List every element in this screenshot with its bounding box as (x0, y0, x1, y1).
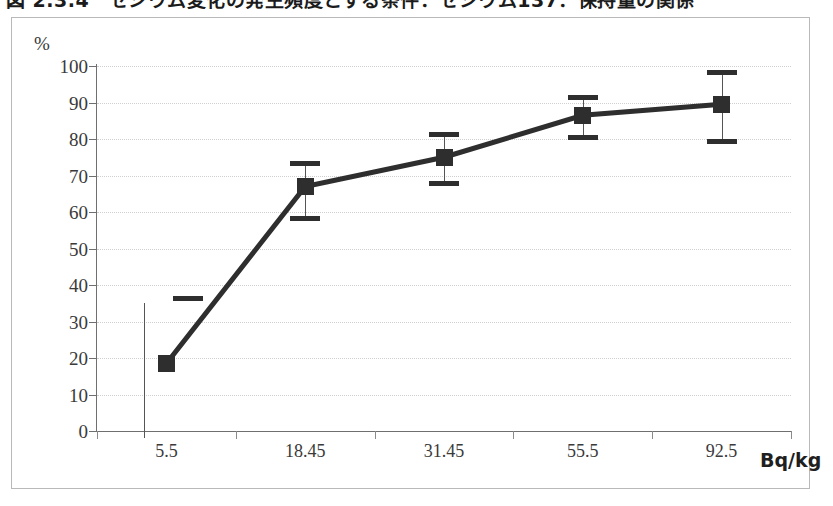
y-axis-tick-label: 10 (42, 386, 88, 405)
error-bar-cap (173, 296, 203, 301)
data-point-marker (297, 178, 314, 195)
data-point-marker (436, 149, 453, 166)
gridline (97, 322, 791, 323)
gridline (97, 212, 791, 213)
y-axis-tick-label: 40 (42, 276, 88, 295)
error-bar-cap (290, 161, 320, 166)
gridline (97, 285, 791, 286)
x-axis-tick (97, 431, 98, 439)
error-bar-cap (429, 132, 459, 137)
x-axis-tick (236, 431, 237, 439)
y-axis-tick-label: 0 (42, 422, 88, 441)
error-bar-cap (707, 70, 737, 75)
x-axis-tick-label: 31.45 (375, 441, 514, 462)
error-bar-cap (429, 181, 459, 186)
error-bar-whisker (144, 303, 145, 438)
x-axis-tick-label: 55.5 (513, 441, 652, 462)
x-axis-line (96, 431, 792, 432)
figure-caption: 図 2.3.4 セシウム変化の発生頻度とする条件：セシウム137：保持量の関係 (6, 0, 695, 12)
error-bar-cap (568, 135, 598, 140)
gridline (97, 249, 791, 250)
gridline (97, 66, 791, 67)
x-axis-tick (513, 431, 514, 439)
figure-caption-strip: 図 2.3.4 セシウム変化の発生頻度とする条件：セシウム137：保持量の関係 (0, 0, 833, 13)
gridline (97, 395, 791, 396)
x-axis-tick (652, 431, 653, 439)
gridline (97, 358, 791, 359)
y-axis-line (96, 64, 97, 432)
y-axis-tick-label: 70 (42, 167, 88, 186)
x-axis-tick-label: 18.45 (236, 441, 375, 462)
y-axis-tick-label: 60 (42, 203, 88, 222)
x-axis-tick (791, 431, 792, 439)
y-axis-tick-label: 80 (42, 130, 88, 149)
error-bar-cap (290, 216, 320, 221)
plot-area (97, 66, 791, 430)
y-axis-tick-label: 100 (42, 57, 88, 76)
error-bar-cap (707, 139, 737, 144)
x-axis-unit-label: Bq/kg (760, 449, 821, 471)
error-bar-cap (568, 95, 598, 100)
data-point-marker (713, 96, 730, 113)
data-point-marker (574, 107, 591, 124)
data-point-marker (158, 355, 175, 372)
y-axis-tick-label: 50 (42, 240, 88, 259)
gridline (97, 103, 791, 104)
x-axis-tick-label: 5.5 (97, 441, 236, 462)
y-axis-labels: 0102030405060708090100 (30, 0, 88, 506)
y-axis-tick-label: 20 (42, 349, 88, 368)
y-axis-tick-label: 30 (42, 313, 88, 332)
y-axis-tick-label: 90 (42, 94, 88, 113)
x-axis-tick (375, 431, 376, 439)
